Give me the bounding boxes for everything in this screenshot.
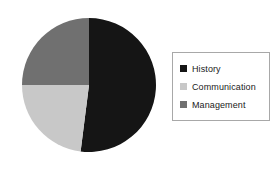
legend-swatch-icon (180, 101, 187, 108)
legend-item[interactable]: Management (180, 96, 269, 114)
legend-item-label: Communication (192, 78, 256, 96)
legend-swatch-icon (180, 83, 187, 90)
legend-item[interactable]: Communication (180, 78, 269, 96)
pie-slice (22, 85, 89, 151)
legend-item[interactable]: History (180, 60, 269, 78)
pie-chart-svg (22, 18, 156, 152)
legend-item-list: HistoryCommunicationManagement (173, 53, 269, 120)
pie-chart-plot-area (22, 18, 156, 152)
legend-item-label: Management (192, 96, 246, 114)
pie-slice (81, 18, 156, 152)
pie-slice (22, 18, 89, 85)
legend-item-label: History (192, 60, 221, 78)
pie-chart-figure: HistoryCommunicationManagement (0, 0, 280, 170)
pie-slice-group (22, 18, 156, 152)
chart-legend: HistoryCommunicationManagement (172, 52, 270, 121)
legend-swatch-icon (180, 65, 187, 72)
